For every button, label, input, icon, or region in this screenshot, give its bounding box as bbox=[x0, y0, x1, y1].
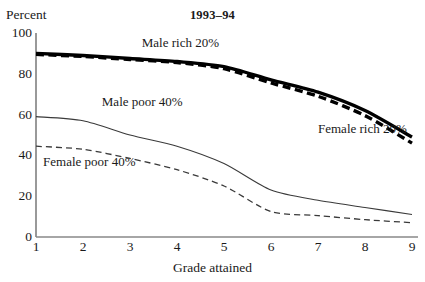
series-label: Female poor 40% bbox=[43, 155, 135, 168]
x-tick-label: 5 bbox=[212, 240, 236, 254]
y-tick-label: 60 bbox=[2, 108, 32, 122]
x-tick-label: 9 bbox=[400, 240, 424, 254]
x-tick-label: 8 bbox=[353, 240, 377, 254]
y-tick-label: 80 bbox=[2, 67, 32, 81]
x-tick-label: 2 bbox=[71, 240, 95, 254]
y-tick-label: 100 bbox=[2, 26, 32, 40]
x-tick-label: 3 bbox=[118, 240, 142, 254]
x-axis-label: Grade attained bbox=[0, 261, 425, 275]
series-label: Male poor 40% bbox=[102, 95, 183, 108]
x-tick-label: 7 bbox=[306, 240, 330, 254]
chart-figure: Percent 1993–94 020406080100 123456789 M… bbox=[0, 0, 425, 282]
series-paths bbox=[36, 53, 412, 222]
y-tick-label: 40 bbox=[2, 148, 32, 162]
series-label: Male rich 20% bbox=[142, 36, 219, 49]
series-label: Female rich 20% bbox=[318, 122, 407, 135]
x-tick-label: 6 bbox=[259, 240, 283, 254]
x-tick-label: 4 bbox=[165, 240, 189, 254]
y-tick-label: 20 bbox=[2, 189, 32, 203]
x-tick-label: 1 bbox=[24, 240, 48, 254]
